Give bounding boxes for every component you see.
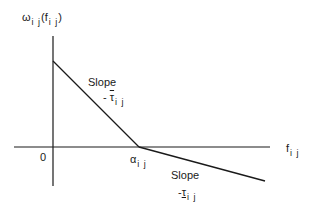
x-axis-label: fi j [286,143,300,154]
lower-slope-value: -τi j [178,187,197,198]
tau-underbar-symbol: τ [182,186,186,198]
minus-sign: - [103,91,107,103]
lower-slope-title: Slope [171,170,199,181]
f-subscript: i j [290,148,300,158]
tau-overbar-symbol: τ [110,91,114,103]
tau-subscript: i j [187,192,197,202]
upper-slope-value: - τi j [103,92,125,103]
lower-segment [139,147,265,181]
diagram-canvas [0,0,318,217]
omega-subscript: i j [32,17,42,27]
close-paren: ) [58,11,62,23]
f-symbol: f [286,142,289,154]
upper-slope-title: Slope [88,77,116,88]
y-axis-label: ωi j(fi j) [22,12,62,23]
f-symbol: f [45,11,48,23]
omega-symbol: ω [22,11,31,23]
alpha-symbol: α [130,153,136,165]
tau-subscript: i j [115,97,125,107]
f-subscript: i j [49,17,59,27]
alpha-subscript: i j [137,159,147,169]
breakpoint-label: αi j [130,154,147,165]
upper-segment [53,61,139,147]
origin-label: 0 [40,152,46,163]
